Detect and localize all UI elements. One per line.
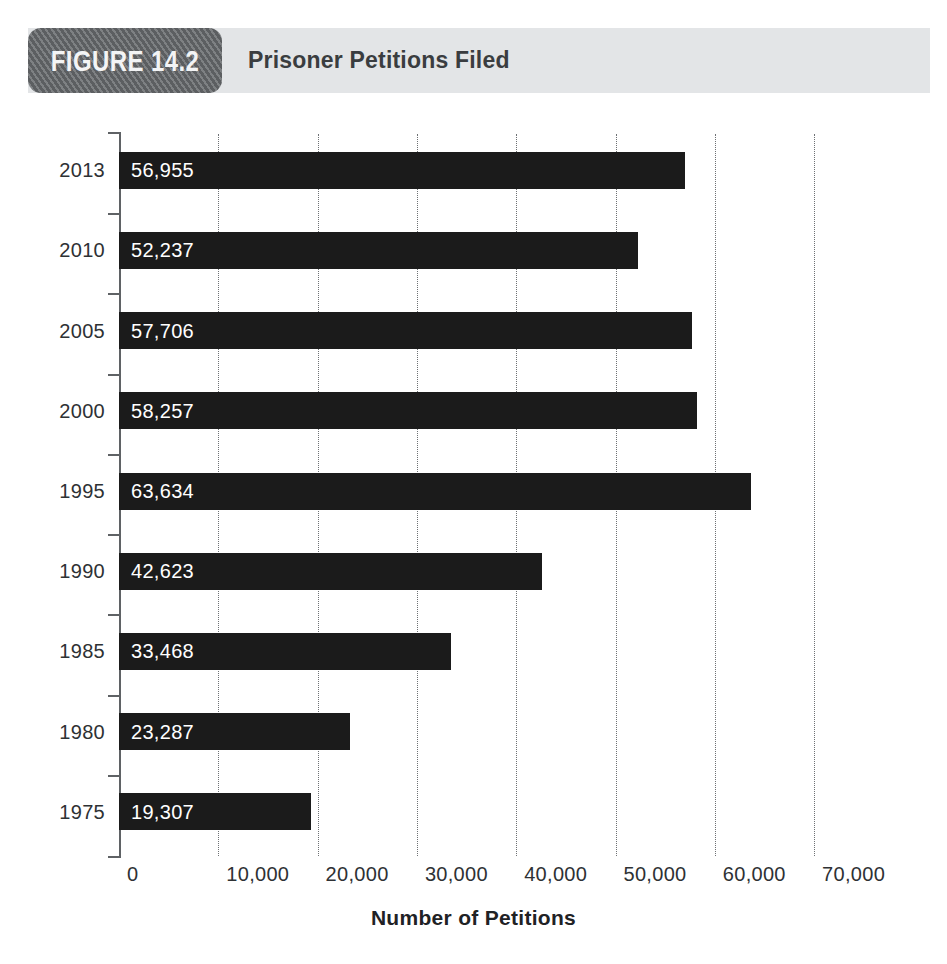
y-axis-tick [108,374,120,376]
bar-row[interactable]: 200058,257 [0,392,947,429]
y-axis-category-label: 2000 [0,399,105,422]
figure-page: FIGURE 14.2 Prisoner Petitions Filed 201… [0,0,947,964]
bar-row[interactable]: 201356,955 [0,152,947,189]
y-axis-category-label: 1975 [0,800,105,823]
y-axis-top-cap [108,132,121,134]
y-axis-category-label: 2013 [0,159,105,182]
bar[interactable]: 56,955 [119,152,685,189]
x-axis-tick-label: 50,000 [624,863,687,886]
x-axis-tick-label: 0 [127,863,138,886]
x-axis-tick-label: 60,000 [723,863,786,886]
y-axis-category-label: 1980 [0,720,105,743]
x-axis-tick-label: 40,000 [524,863,587,886]
bar-value-label: 19,307 [131,800,194,823]
y-axis-tick [108,213,120,215]
bar-row[interactable]: 199042,623 [0,553,947,590]
y-axis-tick [108,775,120,777]
bar-value-label: 57,706 [131,319,194,342]
y-axis-tick [108,293,120,295]
bar-value-label: 42,623 [131,560,194,583]
y-axis-category-label: 1985 [0,640,105,663]
bar[interactable]: 33,468 [119,633,451,670]
bar-row[interactable]: 197519,307 [0,793,947,830]
bar-value-label: 56,955 [131,159,194,182]
bar-value-label: 58,257 [131,399,194,422]
bar-row[interactable]: 198533,468 [0,633,947,670]
x-axis-title: Number of Petitions [0,906,947,930]
bar-chart: 201356,955201052,237200557,706200058,257… [0,0,947,964]
bar[interactable]: 23,287 [119,713,350,750]
bar-row[interactable]: 200557,706 [0,312,947,349]
y-axis-bottom-cap [108,856,121,858]
y-axis-category-label: 2005 [0,319,105,342]
bar[interactable]: 19,307 [119,793,311,830]
bar-row[interactable]: 201052,237 [0,232,947,269]
x-axis-tick-label: 70,000 [822,863,885,886]
bar-row[interactable]: 199563,634 [0,473,947,510]
y-axis-tick [108,614,120,616]
bar[interactable]: 63,634 [119,473,751,510]
y-axis-tick [108,534,120,536]
bar-value-label: 23,287 [131,720,194,743]
y-axis-tick [108,695,120,697]
bar-value-label: 33,468 [131,640,194,663]
bar-value-label: 52,237 [131,239,194,262]
x-axis-tick-label: 10,000 [226,863,289,886]
y-axis-category-label: 1995 [0,480,105,503]
bar[interactable]: 42,623 [119,553,542,590]
bar[interactable]: 58,257 [119,392,697,429]
y-axis-category-label: 2010 [0,239,105,262]
bar-row[interactable]: 198023,287 [0,713,947,750]
bar[interactable]: 57,706 [119,312,692,349]
y-axis-tick [108,454,120,456]
x-axis-tick-label: 20,000 [326,863,389,886]
y-axis-category-label: 1990 [0,560,105,583]
bar[interactable]: 52,237 [119,232,638,269]
bar-value-label: 63,634 [131,480,194,503]
x-axis-tick-label: 30,000 [425,863,488,886]
